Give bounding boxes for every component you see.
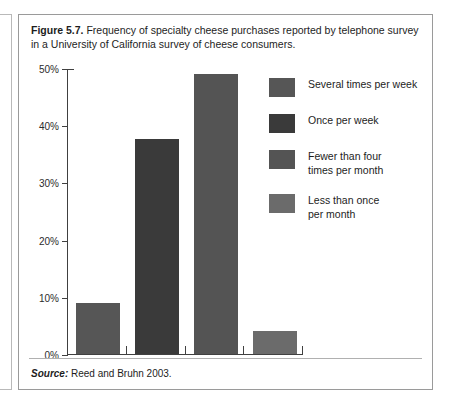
y-axis-tick-label: 30% — [39, 178, 59, 189]
source-divider — [29, 358, 422, 359]
figure-caption: Figure 5.7. Frequency of specialty chees… — [31, 23, 421, 51]
y-axis-tick: 20% — [67, 241, 68, 242]
y-axis-tick: 50% — [67, 69, 68, 70]
source-text: Reed and Bruhn 2003. — [68, 368, 171, 379]
bar — [135, 139, 179, 354]
bar — [253, 331, 297, 354]
y-axis-tick: 30% — [67, 183, 68, 184]
y-axis-tick-mark — [62, 126, 68, 127]
legend-label: Fewer than four times per month — [308, 149, 383, 177]
x-axis-tick-mark — [302, 346, 303, 355]
y-axis-tick-mark — [62, 183, 68, 184]
y-axis-tick-label: 10% — [39, 292, 59, 303]
legend-item: Less than once per month — [269, 193, 429, 221]
legend-swatch — [269, 194, 295, 213]
y-axis-tick: 10% — [67, 298, 68, 299]
legend-item: Several times per week — [269, 77, 429, 97]
legend-item: Once per week — [269, 113, 429, 133]
x-axis-tick-mark — [185, 346, 186, 355]
y-axis-tick-mark — [62, 69, 68, 70]
figure-frame: Figure 5.7. Frequency of specialty chees… — [18, 14, 433, 390]
legend-label: Less than once per month — [308, 193, 379, 221]
y-axis-tick-label: 20% — [39, 235, 59, 246]
y-axis-tick-label: 50% — [39, 64, 59, 75]
legend-swatch — [269, 78, 295, 97]
legend-label: Several times per week — [308, 77, 417, 91]
source-label: Source: — [31, 368, 68, 379]
source-note: Source: Reed and Bruhn 2003. — [31, 368, 172, 379]
y-axis-tick-mark — [62, 298, 68, 299]
y-axis-tick: 40% — [67, 126, 68, 127]
y-axis-tick: 0% — [67, 355, 68, 356]
x-axis-tick-mark — [126, 346, 127, 355]
bar — [194, 74, 238, 354]
chart-plot-area: 0%10%20%30%40%50% — [67, 69, 302, 355]
y-axis-tick-mark — [62, 355, 68, 356]
figure-caption-text: Frequency of specialty cheese purchases … — [31, 24, 419, 50]
y-axis-tick-label: 40% — [39, 121, 59, 132]
legend-swatch — [269, 150, 295, 169]
bar — [76, 303, 120, 354]
page-edge-box — [0, 14, 12, 390]
legend-swatch — [269, 114, 295, 133]
legend-label: Once per week — [308, 113, 379, 127]
y-axis-line — [67, 69, 68, 355]
y-axis-tick-mark — [62, 241, 68, 242]
y-axis-top-cap — [67, 69, 74, 70]
figure-caption-label: Figure 5.7. — [31, 24, 84, 36]
legend-item: Fewer than four times per month — [269, 149, 429, 177]
x-axis-tick-mark — [243, 346, 244, 355]
chart-legend: Several times per weekOnce per weekFewer… — [269, 77, 429, 237]
